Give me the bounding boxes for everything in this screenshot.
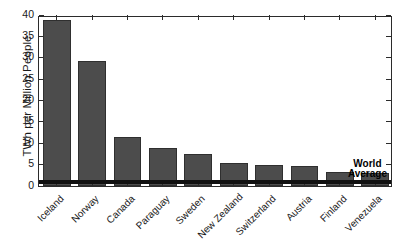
x-tick-mark-top — [233, 15, 234, 20]
x-tick-mark-top — [56, 15, 57, 20]
y-tick-label: 15 — [0, 114, 34, 126]
y-tick-label: 10 — [0, 136, 34, 148]
x-tick-mark-top — [92, 15, 93, 20]
y-tick-mark-right — [386, 36, 391, 37]
bar — [114, 137, 142, 186]
bar-chart-figure: TWh per Million People 0510152025303540W… — [0, 0, 413, 243]
x-tick-mark-top — [198, 15, 199, 20]
y-tick-mark-right — [386, 143, 391, 144]
x-tick-mark-top — [304, 15, 305, 20]
x-tick-mark-top — [162, 15, 163, 20]
y-tick-label: 35 — [0, 29, 34, 41]
plot-area: 0510152025303540WorldAverage — [38, 16, 392, 187]
x-tick-mark-top — [269, 15, 270, 20]
x-tick-mark-top — [339, 15, 340, 20]
bar — [78, 61, 106, 186]
y-tick-mark-right — [386, 121, 391, 122]
y-tick-label: 20 — [0, 93, 34, 105]
y-tick-mark-right — [386, 100, 391, 101]
y-tick-mark — [39, 15, 44, 16]
y-tick-label: 0 — [0, 179, 34, 191]
bar — [43, 20, 71, 186]
x-tick-mark-top — [127, 15, 128, 20]
y-tick-label: 40 — [0, 8, 34, 20]
x-tick-mark-top — [375, 15, 376, 20]
y-tick-label: 25 — [0, 72, 34, 84]
world-average-line — [39, 180, 391, 183]
plot-inner: 0510152025303540WorldAverage — [39, 17, 391, 186]
y-tick-label: 30 — [0, 50, 34, 62]
y-tick-label: 5 — [0, 157, 34, 169]
y-tick-mark-right — [386, 15, 391, 16]
world-average-label-line2: Average — [348, 169, 387, 180]
y-tick-mark-right — [386, 57, 391, 58]
y-tick-mark-right — [386, 79, 391, 80]
world-average-label: WorldAverage — [348, 159, 387, 180]
